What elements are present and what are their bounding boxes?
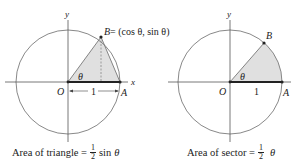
angle-label-right: θ xyxy=(240,71,245,82)
caption-theta: θ xyxy=(114,147,119,158)
arrowhead-left xyxy=(69,90,73,93)
point-a-dot xyxy=(118,80,121,83)
caption-theta: θ xyxy=(270,147,275,158)
point-b-dot-right xyxy=(262,41,265,44)
left-figure: 1 y x O A θ B= (cos θ, sin θ) xyxy=(5,9,170,142)
point-o-dot-right xyxy=(229,81,232,84)
origin-label-left: O xyxy=(57,86,64,97)
point-a-dot-right xyxy=(280,80,283,83)
fraction-one-half: 1 2 xyxy=(258,144,264,161)
fraction-one-half: 1 2 xyxy=(90,144,96,161)
arrowhead-right xyxy=(115,90,119,93)
caption-text: Area of sector = xyxy=(187,147,255,158)
radius-label-right: 1 xyxy=(254,86,259,97)
angle-label-left: θ xyxy=(78,71,83,82)
point-a-label-right: A xyxy=(282,87,290,98)
y-axis-label-left: y xyxy=(64,9,69,19)
point-b-label-left: B= (cos θ, sin θ) xyxy=(104,26,170,38)
caption-text: Area of triangle = xyxy=(12,147,87,158)
point-b-dot xyxy=(99,35,102,38)
y-axis-label-right: y xyxy=(226,9,231,19)
point-a-label-left: A xyxy=(120,87,128,98)
point-o-dot xyxy=(67,81,70,84)
caption-function: sin xyxy=(99,147,111,158)
caption-sector-area: Area of sector = 1 2 θ xyxy=(187,144,275,161)
point-b-label-right: B xyxy=(266,30,272,41)
origin-label-right: O xyxy=(219,86,226,97)
x-axis-label-left: x xyxy=(130,77,135,87)
diagram-canvas: 1 y x O A θ B= (cos θ, sin θ) y O A B θ … xyxy=(0,0,296,168)
caption-triangle-area: Area of triangle = 1 2 sin θ xyxy=(12,144,119,161)
shaded-sector xyxy=(230,43,282,82)
radius-label-left: 1 xyxy=(91,86,96,97)
shaded-triangle xyxy=(68,37,120,82)
right-figure: y O A B θ 1 xyxy=(168,9,291,142)
